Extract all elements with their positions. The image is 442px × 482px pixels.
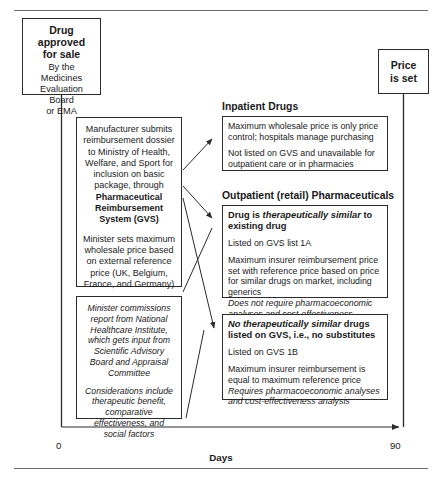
node-therapeutically-similar: Drug is therapeutically similar to exist… [222,205,388,298]
minister-paragraph-2: Considerations include therapeutic benef… [82,386,176,440]
manufacturer-paragraph-2: Minister sets maximum wholesale price ba… [82,234,176,290]
diagram-canvas: Drugapprovedfor sale By the MedicinesEva… [0,0,442,482]
timeline-start-label: 0 [56,440,61,451]
node-manufacturer-submits: Manufacturer submits reimbursement dossi… [76,117,182,287]
bottom-divider-rule [14,468,428,469]
manufacturer-text-plain: Manufacturer submits reimbursement dossi… [83,124,175,190]
similar-lead-prefix: Drug is [228,210,263,220]
nosubstitute-lead-italic: No therapeutically similar [228,319,341,329]
minister-paragraph-1: Minister commissions report from Nationa… [82,303,176,379]
top-divider-rule [14,10,428,11]
section-heading-outpatient: Outpatient (retail) Pharmaceuticals [222,190,394,201]
similar-lead-italic: therapeutically similar [263,210,361,220]
timeline-end-label: 90 [390,440,401,451]
timeline-axis-title: Days [0,452,442,463]
node-price-is-set: Priceis set [378,49,429,94]
nosubstitute-listed: Listed on GVS 1B [228,347,382,358]
price-set-title: Priceis set [390,59,417,83]
node-drug-approved: Drugapprovedfor sale By the MedicinesEva… [22,18,101,95]
similar-listed: Listed on GVS list 1A [228,238,382,249]
nosubstitute-lead: No therapeutically similar drugs listed … [228,319,382,341]
section-heading-inpatient: Inpatient Drugs [222,101,298,112]
manufacturer-text-bold: Pharmaceutical Reimbursement System (GVS… [95,192,163,225]
similar-detail: Maximum insurer reimbursement price set … [228,255,382,297]
similar-lead: Drug is therapeutically similar to exist… [228,210,382,232]
drug-approved-title: Drugapprovedfor sale [27,24,96,61]
inpatient-line-2: Not listed on GVS and unavailable for ou… [228,148,382,169]
nosubstitute-detail: Maximum insurer reimbursement is equal t… [228,364,382,385]
node-no-therapeutically-similar: No therapeutically similar drugs listed … [222,314,388,400]
node-inpatient-drugs: Maximum wholesale price is only price co… [222,116,388,171]
inpatient-line-1: Maximum wholesale price is only price co… [228,121,382,142]
drug-approved-subtitle: By the MedicinesEvaluation Boardor EMA [27,62,96,118]
manufacturer-paragraph-1: Manufacturer submits reimbursement dossi… [82,124,176,226]
nosubstitute-note: Requires pharmacoeconomic analyses and c… [228,386,382,407]
node-minister-commissions-report: Minister commissions report from Nationa… [76,296,182,419]
